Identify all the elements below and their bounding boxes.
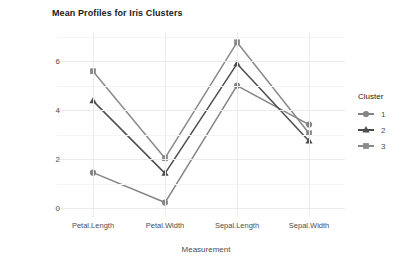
legend-item-2[interactable]: 2 <box>358 122 410 138</box>
legend-key-triangle-icon <box>358 123 374 137</box>
x-axis-tick-label: Sepal.Width <box>289 221 329 230</box>
x-axis-tick-label: Petal.Length <box>72 221 114 230</box>
plot-panel <box>57 32 345 217</box>
legend-label-1: 1 <box>381 110 385 119</box>
legend-title: Cluster <box>358 92 410 101</box>
gridline-minor <box>57 135 345 136</box>
chart-container: Mean Profiles for Iris Clusters Centimet… <box>0 0 412 270</box>
gridline-vertical <box>165 32 166 217</box>
legend-label-2: 2 <box>381 126 385 135</box>
legend-item-3[interactable]: 3 <box>358 138 410 154</box>
y-axis-tick-label: 2 <box>56 155 60 164</box>
data-point-circle <box>363 111 369 117</box>
y-axis-tick-label: 6 <box>56 57 60 66</box>
data-point-triangle <box>362 126 369 132</box>
legend: Cluster 123 <box>358 92 410 154</box>
gridline-minor <box>57 37 345 38</box>
gridline-vertical <box>93 32 94 217</box>
y-axis-tick-label: 0 <box>56 204 60 213</box>
legend-key-square-icon <box>358 139 374 153</box>
legend-key-circle-icon <box>358 107 374 121</box>
gridline-vertical <box>237 32 238 217</box>
y-axis-tick-label: 4 <box>56 106 60 115</box>
series-line-2 <box>93 64 309 174</box>
x-axis-tick-label: Sepal.Length <box>215 221 259 230</box>
legend-label-3: 3 <box>381 142 385 151</box>
gridline-major <box>57 159 345 160</box>
legend-item-1[interactable]: 1 <box>358 106 410 122</box>
x-axis-tick-label: Petal.Width <box>146 221 184 230</box>
chart-title: Mean Profiles for Iris Clusters <box>52 8 183 18</box>
gridline-minor <box>57 184 345 185</box>
series-line-3 <box>93 42 309 158</box>
gridline-vertical <box>309 32 310 217</box>
series-line-1 <box>93 86 309 203</box>
gridline-major <box>57 61 345 62</box>
gridline-major <box>57 208 345 209</box>
series-layer <box>57 32 345 217</box>
gridline-minor <box>57 86 345 87</box>
data-point-square <box>363 143 369 149</box>
gridline-major <box>57 110 345 111</box>
x-axis-title: Measurement <box>0 245 412 254</box>
